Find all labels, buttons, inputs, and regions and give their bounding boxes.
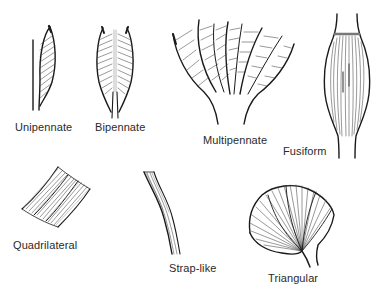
unipennate-muscle-illustration — [28, 24, 58, 114]
quadrilateral-muscle-illustration — [18, 165, 92, 231]
triangular-label: Triangular — [268, 272, 318, 284]
fusiform-muscle-illustration — [322, 12, 372, 160]
bipennate-label: Bipennate — [95, 121, 145, 133]
fusiform-label: Fusiform — [283, 145, 327, 157]
strap-like-label: Strap-like — [169, 262, 216, 274]
multipennate-muscle-illustration — [170, 16, 295, 128]
bipennate-muscle-illustration — [93, 26, 137, 120]
multipennate-label: Multipennate — [203, 134, 267, 146]
triangular-muscle-illustration — [246, 183, 338, 269]
strap-like-muscle-illustration — [142, 170, 182, 256]
unipennate-label: Unipennate — [15, 121, 72, 133]
quadrilateral-label: Quadrilateral — [13, 239, 77, 251]
